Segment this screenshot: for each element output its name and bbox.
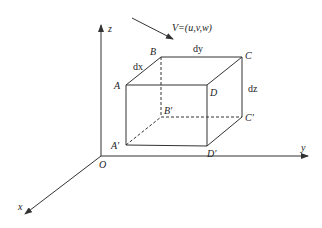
edge-label-dz: dz bbox=[248, 83, 258, 94]
edge-label-dx: dx bbox=[133, 61, 143, 72]
velocity-label: V=(u,v,w) bbox=[172, 22, 213, 34]
fluid-element-diagram: z y x O V=(u,v,w) A B C D A′ B′ C′ D′ dx… bbox=[0, 0, 322, 228]
vertex-label-A: A bbox=[113, 80, 121, 91]
vertex-label-D-prime: D′ bbox=[206, 148, 217, 159]
vertex-label-B-prime: B′ bbox=[164, 105, 173, 116]
x-axis bbox=[25, 156, 101, 214]
vertex-label-D: D bbox=[209, 87, 218, 98]
edge-AB bbox=[126, 57, 161, 85]
vertex-label-A-prime: A′ bbox=[110, 140, 120, 151]
edge-label-dy: dy bbox=[193, 43, 203, 54]
velocity-arrow bbox=[132, 18, 173, 39]
x-axis-label: x bbox=[17, 201, 23, 212]
vertex-label-C: C bbox=[245, 50, 252, 61]
edge-A-prime-D-prime bbox=[126, 145, 207, 146]
edge-D-prime-C-prime bbox=[207, 117, 242, 146]
z-axis-label: z bbox=[107, 23, 112, 34]
edge-A-prime-B-prime-hidden bbox=[126, 117, 161, 145]
edge-CD bbox=[207, 57, 242, 85]
y-axis-label: y bbox=[300, 142, 306, 153]
vertex-label-B: B bbox=[150, 46, 156, 57]
vertex-label-C-prime: C′ bbox=[245, 112, 255, 123]
origin-label: O bbox=[99, 159, 106, 170]
